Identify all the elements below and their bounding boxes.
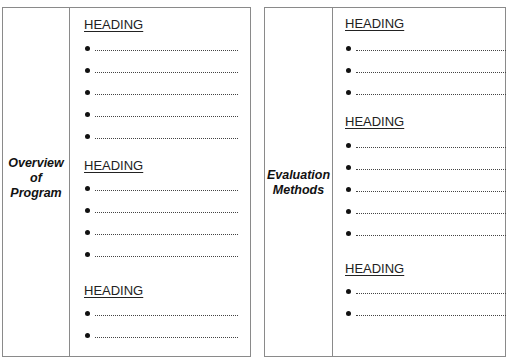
label-line: Overview xyxy=(3,156,69,171)
bullet-item xyxy=(85,107,238,121)
panel-label: Overview of Program xyxy=(3,156,69,201)
bullet-icon xyxy=(85,230,90,235)
panel-evaluation-methods: Evaluation Methods HEADING HEADING HEADI… xyxy=(264,7,506,357)
dotted-leader xyxy=(356,169,506,170)
bullet-icon xyxy=(85,333,90,338)
dotted-leader xyxy=(356,213,506,214)
label-line: Evaluation xyxy=(265,168,332,183)
panel-divider xyxy=(332,8,333,356)
bullet-item xyxy=(85,328,238,342)
bullet-icon xyxy=(346,68,351,73)
bullet-icon xyxy=(85,46,90,51)
dotted-leader xyxy=(95,116,238,117)
bullet-icon xyxy=(346,187,351,192)
dotted-leader xyxy=(356,293,506,294)
bullet-item xyxy=(85,225,238,239)
dotted-leader xyxy=(95,256,238,257)
section-heading: HEADING xyxy=(345,261,404,276)
bullet-icon xyxy=(346,289,351,294)
dotted-leader xyxy=(356,191,506,192)
dotted-leader xyxy=(95,234,238,235)
bullet-item xyxy=(346,306,506,320)
dotted-leader xyxy=(356,315,506,316)
bullet-icon xyxy=(346,143,351,148)
section-heading: HEADING xyxy=(84,17,143,32)
dotted-leader xyxy=(95,337,238,338)
dotted-leader xyxy=(356,235,506,236)
dotted-leader xyxy=(356,94,506,95)
bullet-item xyxy=(346,85,506,99)
bullet-item xyxy=(346,284,506,298)
bullet-icon xyxy=(346,209,351,214)
bullet-icon xyxy=(85,90,90,95)
bullet-item xyxy=(85,203,238,217)
bullet-icon xyxy=(85,112,90,117)
bullet-item xyxy=(85,129,238,143)
label-line: Methods xyxy=(265,183,332,198)
dotted-leader xyxy=(95,190,238,191)
dotted-leader xyxy=(356,72,506,73)
bullet-item xyxy=(346,41,506,55)
bullet-item xyxy=(346,160,506,174)
dotted-leader xyxy=(356,50,506,51)
bullet-icon xyxy=(85,68,90,73)
bullet-item xyxy=(85,181,238,195)
bullet-icon xyxy=(346,165,351,170)
bullet-icon xyxy=(85,311,90,316)
dotted-leader xyxy=(95,94,238,95)
bullet-item xyxy=(85,41,238,55)
dotted-leader xyxy=(95,315,238,316)
bullet-item xyxy=(346,63,506,77)
bullet-icon xyxy=(346,46,351,51)
bullet-item xyxy=(85,306,238,320)
label-line: Program xyxy=(3,186,69,201)
panel-divider xyxy=(69,8,70,356)
bullet-item xyxy=(346,204,506,218)
bullet-icon xyxy=(346,311,351,316)
bullet-icon xyxy=(85,252,90,257)
dotted-leader xyxy=(95,50,238,51)
dotted-leader xyxy=(356,147,506,148)
bullet-item xyxy=(85,85,238,99)
bullet-item xyxy=(346,138,506,152)
panel-label: Evaluation Methods xyxy=(265,168,332,198)
bullet-item xyxy=(346,226,506,240)
label-line: of xyxy=(3,171,69,186)
dotted-leader xyxy=(95,138,238,139)
bullet-icon xyxy=(85,134,90,139)
section-heading: HEADING xyxy=(345,114,404,129)
bullet-icon xyxy=(85,208,90,213)
bullet-item xyxy=(85,63,238,77)
bullet-icon xyxy=(346,231,351,236)
panel-overview-of-program: Overview of Program HEADING HEADING HEAD… xyxy=(2,7,251,357)
bullet-icon xyxy=(346,90,351,95)
dotted-leader xyxy=(95,72,238,73)
section-heading: HEADING xyxy=(345,16,404,31)
dotted-leader xyxy=(95,212,238,213)
section-heading: HEADING xyxy=(84,283,143,298)
bullet-item xyxy=(346,182,506,196)
bullet-icon xyxy=(85,186,90,191)
section-heading: HEADING xyxy=(84,158,143,173)
bullet-item xyxy=(85,247,238,261)
